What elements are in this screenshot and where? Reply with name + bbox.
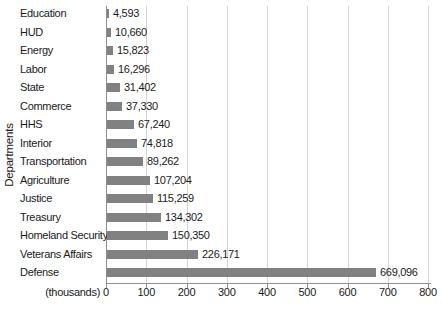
y-axis-title: Departments	[3, 85, 17, 225]
category-label: Veterans Affairs	[20, 248, 104, 261]
x-tick-label: 500	[287, 286, 327, 298]
category-label: Commerce	[20, 100, 104, 113]
category-label: Education	[20, 7, 104, 20]
value-label: 16,296	[118, 63, 150, 76]
bar	[107, 157, 143, 166]
bar	[107, 176, 150, 185]
value-label: 74,818	[141, 137, 173, 150]
category-label: Interior	[20, 137, 104, 150]
bar	[107, 194, 153, 203]
category-label: Treasury	[20, 211, 104, 224]
value-label: 4,593	[113, 7, 139, 20]
category-label: HUD	[20, 26, 104, 39]
gridline	[307, 6, 308, 283]
x-tick-label: 300	[207, 286, 247, 298]
category-label: Energy	[20, 44, 104, 57]
x-axis-unit-label: (thousands)	[30, 286, 100, 298]
gridline	[388, 6, 389, 283]
value-label: 31,402	[124, 81, 156, 94]
bar	[107, 231, 168, 240]
value-label: 134,302	[165, 211, 203, 224]
bar	[107, 9, 109, 18]
x-tick-label: 800	[408, 286, 442, 298]
category-label: HHS	[20, 118, 104, 131]
x-tick-label: 600	[328, 286, 368, 298]
bar	[107, 120, 134, 129]
value-label: 107,204	[154, 174, 192, 187]
gridline	[348, 6, 349, 283]
gridline	[227, 6, 228, 283]
x-tick-label: 700	[368, 286, 408, 298]
value-label: 150,350	[172, 229, 210, 242]
x-tick-label: 400	[247, 286, 287, 298]
category-label: State	[20, 81, 104, 94]
value-label: 15,823	[117, 44, 149, 57]
value-label: 89,262	[147, 155, 179, 168]
category-label: Defense	[20, 266, 104, 279]
gridline	[267, 6, 268, 283]
value-label: 10,660	[115, 26, 147, 39]
x-axis-line	[106, 283, 431, 284]
bar	[107, 65, 114, 74]
value-label: 67,240	[138, 118, 170, 131]
gridline	[428, 6, 429, 283]
category-label: Transportation	[20, 155, 104, 168]
x-tick-label: 200	[167, 286, 207, 298]
x-tick-label: 100	[126, 286, 166, 298]
bar	[107, 28, 111, 37]
value-label: 115,259	[157, 192, 194, 205]
bar	[107, 83, 120, 92]
category-label: Justice	[20, 192, 104, 205]
category-label: Labor	[20, 63, 104, 76]
category-label: Homeland Security	[20, 229, 104, 242]
category-label: Agriculture	[20, 174, 104, 187]
bar	[107, 46, 113, 55]
value-label: 226,171	[202, 248, 240, 261]
value-label: 37,330	[126, 100, 158, 113]
bar	[107, 250, 198, 259]
bar	[107, 268, 376, 277]
bar	[107, 213, 161, 222]
value-label: 669,096	[380, 266, 418, 279]
bar	[107, 102, 122, 111]
bar	[107, 139, 137, 148]
